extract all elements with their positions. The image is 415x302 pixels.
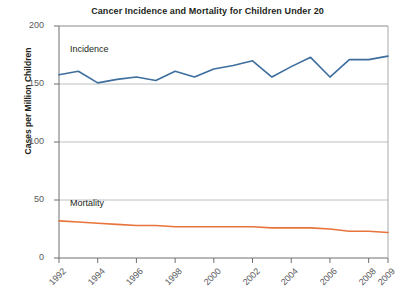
series-label-mortality: Mortality [70,198,104,208]
series-line-incidence [59,56,388,83]
series-line-mortality [59,221,388,233]
series-label-incidence: Incidence [70,44,109,54]
x-axis-ticks [59,258,388,263]
chart-figure: Cancer Incidence and Mortality for Child… [0,0,415,302]
y-axis-ticks [54,26,59,258]
plot-area [0,0,415,302]
series-lines [59,56,388,232]
